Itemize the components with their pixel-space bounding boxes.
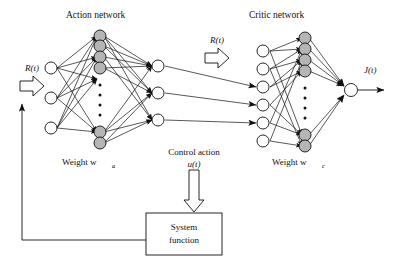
critic-hidden-node — [299, 54, 311, 66]
reward-critic-label: R(t) — [209, 35, 224, 45]
reward-action-label: R(t) — [24, 63, 39, 73]
critic-hidden-node — [299, 140, 311, 152]
critic-hidden-node — [299, 43, 311, 55]
adaptive-critic-diagram: Action network Critic network — [0, 0, 396, 263]
action-hidden-node — [94, 40, 106, 52]
critic-output-node — [345, 84, 358, 97]
critic-input-node — [257, 117, 269, 129]
critic-input-node — [257, 45, 269, 57]
critic-input-node — [257, 81, 269, 93]
weight-critic-label: Weight w — [272, 157, 307, 167]
output-label: J(t) — [364, 65, 377, 75]
action-output-node — [152, 114, 164, 126]
action-output-node — [152, 60, 164, 72]
system-function-block[interactable] — [146, 213, 222, 255]
critic-input-node — [257, 63, 269, 75]
critic-input-node — [257, 99, 269, 111]
action-hidden-node — [94, 51, 106, 63]
action-hidden-node — [94, 126, 106, 138]
control-signal-label: u(t) — [188, 159, 201, 169]
critic-hidden-node — [299, 129, 311, 141]
action-input-node — [45, 62, 57, 74]
system-function-label-line1: System — [171, 222, 198, 232]
weight-action-label: Weight w — [62, 157, 97, 167]
system-function-label-line2: function — [169, 235, 199, 245]
critic-network-title: Critic network — [249, 10, 304, 20]
critic-hidden-node — [299, 32, 311, 44]
action-input-layer — [45, 62, 57, 134]
action-output-layer — [152, 60, 164, 126]
action-hidden-node — [94, 137, 106, 149]
control-action-label: Control action — [168, 147, 220, 157]
critic-hidden-node — [299, 65, 311, 77]
weight-critic-subscript: c — [322, 162, 325, 169]
action-output-node — [152, 87, 164, 99]
weight-action-subscript: a — [112, 162, 115, 169]
critic-input-node — [257, 135, 269, 147]
action-network-title: Action network — [66, 10, 126, 20]
action-input-node — [45, 92, 57, 104]
action-input-node — [45, 122, 57, 134]
action-hidden-node — [94, 62, 106, 74]
